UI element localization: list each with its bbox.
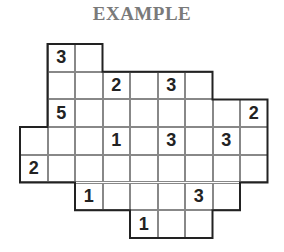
puzzle-title: EXAMPLE: [0, 3, 284, 25]
grid-outline: [20, 44, 268, 238]
